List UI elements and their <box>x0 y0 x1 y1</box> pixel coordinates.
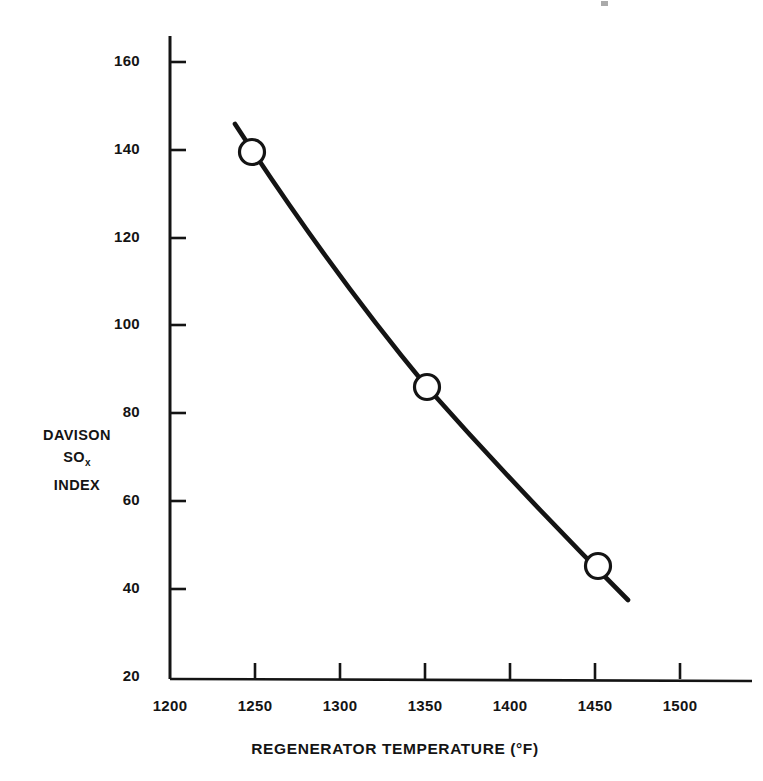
x-axis-title: REGENERATOR TEMPERATURE (°F) <box>160 740 630 758</box>
y-axis-title-line-3: INDEX <box>18 474 136 496</box>
x-tick-label-1400: 1400 <box>475 697 545 714</box>
y-tick-label-120: 120 <box>92 228 140 245</box>
x-tick-label-1350: 1350 <box>390 697 460 714</box>
y-axis-title-sox: SO <box>63 449 85 465</box>
y-tick-label-160: 160 <box>92 52 140 69</box>
chart-figure: 160 140 120 100 80 60 40 20 1200 1250 13… <box>0 0 763 781</box>
y-tick-label-40: 40 <box>92 579 140 596</box>
y-tick-label-140: 140 <box>92 140 140 157</box>
y-axis-title-line-2: SOx <box>18 446 136 474</box>
plot-area <box>0 0 763 781</box>
y-tick-label-100: 100 <box>92 315 140 332</box>
data-point-markers <box>240 140 611 579</box>
x-tick-label-1500: 1500 <box>645 697 715 714</box>
x-tick-label-1250: 1250 <box>220 697 290 714</box>
x-axis-spine <box>170 679 752 681</box>
x-axis-ticks <box>255 663 680 679</box>
y-tick-label-80: 80 <box>92 403 140 420</box>
x-tick-label-1300: 1300 <box>305 697 375 714</box>
y-axis-ticks <box>170 62 186 589</box>
data-point-1350-86 <box>415 375 440 400</box>
x-tick-label-1200: 1200 <box>135 697 205 714</box>
y-axis-title: DAVISON SOx INDEX <box>18 424 136 496</box>
y-axis-title-subscript: x <box>85 457 91 468</box>
y-axis-title-line-1: DAVISON <box>18 424 136 446</box>
data-point-1450-45 <box>586 554 611 579</box>
data-line-davison-sox-index <box>235 124 628 600</box>
x-tick-label-1450: 1450 <box>560 697 630 714</box>
y-tick-label-20: 20 <box>92 667 140 684</box>
data-point-1250-139 <box>240 140 265 165</box>
